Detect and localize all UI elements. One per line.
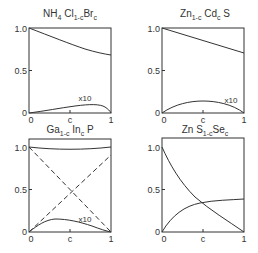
chart-grid: NH4 Cl1-cBrc 1.0 0.5 0 0 c 1 x10 Zn1-c C… bbox=[0, 0, 258, 253]
y-tick-label: 1.0 bbox=[147, 143, 160, 153]
x-tick-label: 0 bbox=[28, 115, 33, 125]
x-tick-label: c bbox=[68, 234, 73, 244]
decreasing-curve bbox=[162, 147, 244, 232]
panel-title: Ga1-c Inc P bbox=[46, 124, 93, 137]
y-tick-label: 1.0 bbox=[147, 24, 160, 34]
dashed-decreasing-line bbox=[29, 147, 111, 232]
y-tick-label: 0.5 bbox=[147, 185, 160, 195]
y-tick-label: 0.5 bbox=[14, 66, 27, 76]
y-tick-label: 0 bbox=[22, 108, 27, 118]
x-tick-label: 1 bbox=[108, 234, 113, 244]
x-tick-label: 0 bbox=[28, 234, 33, 244]
upper-curve bbox=[29, 28, 111, 55]
scale-annotation: x10 bbox=[225, 96, 238, 105]
panel-znCdS: Zn1-c Cdc S 1.0 0.5 0 0 c 1 x10 bbox=[147, 8, 246, 125]
x-tick-label: 1 bbox=[108, 115, 113, 125]
panel-nh4clbr: NH4 Cl1-cBrc 1.0 0.5 0 0 c 1 x10 bbox=[14, 8, 113, 125]
x-tick-label: 0 bbox=[161, 115, 166, 125]
panel-title: Zn1-c Cdc S bbox=[180, 8, 230, 21]
x-tick-label: c bbox=[201, 234, 206, 244]
y-tick-label: 1.0 bbox=[14, 143, 27, 153]
y-tick-label: 1.0 bbox=[14, 24, 27, 34]
y-tick-label: 0 bbox=[22, 227, 27, 237]
plot-frame bbox=[29, 139, 111, 232]
upper-curve bbox=[29, 147, 111, 149]
scale-annotation: x10 bbox=[79, 94, 92, 103]
y-tick-label: 0.5 bbox=[147, 66, 160, 76]
panel-gainp: Ga1-c Inc P 1.0 0.5 0 0 c 1 x10 bbox=[14, 124, 113, 244]
x-tick-label: 0 bbox=[161, 234, 166, 244]
x-tick-label: 1 bbox=[241, 234, 246, 244]
panel-title: NH4 Cl1-cBrc bbox=[43, 8, 97, 21]
x-tick-label: 1 bbox=[241, 115, 246, 125]
panel-znsse: Zn S1-cSec 1.0 0.5 0 0 c 1 bbox=[147, 124, 246, 244]
plot-frame bbox=[29, 28, 111, 113]
plot-frame bbox=[162, 138, 244, 232]
y-tick-label: 0 bbox=[155, 108, 160, 118]
scale-annotation: x10 bbox=[79, 215, 92, 224]
y-tick-label: 0 bbox=[155, 227, 160, 237]
y-tick-label: 0.5 bbox=[14, 185, 27, 195]
upper-curve bbox=[162, 28, 244, 53]
panel-title: Zn S1-cSec bbox=[182, 124, 229, 137]
